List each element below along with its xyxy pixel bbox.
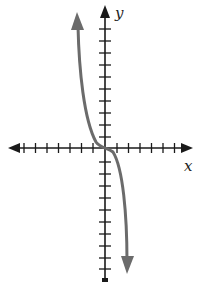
y-axis-bottom-end — [102, 278, 108, 282]
x-axis-right-arrow-icon — [181, 143, 193, 153]
y-axis-up-arrow-icon — [100, 5, 110, 18]
x-axis-label: x — [184, 157, 193, 175]
cubic-graph: x y — [0, 0, 197, 284]
curve-up-arrow-icon — [71, 12, 84, 30]
x-axis: x — [8, 143, 193, 175]
curve-down-arrow-icon — [121, 256, 134, 274]
cubic-curve — [71, 12, 134, 274]
y-axis-label: y — [114, 4, 124, 22]
y-axis: y — [99, 4, 124, 282]
x-axis-left-arrow-icon — [8, 143, 20, 153]
